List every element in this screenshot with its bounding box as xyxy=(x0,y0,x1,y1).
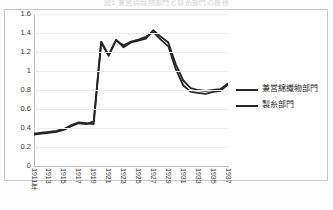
x-axis-tick-label: 1925 xyxy=(135,168,142,184)
y-axis-tick-label: 1.2 xyxy=(1,48,31,56)
gridline xyxy=(34,52,228,53)
gridline xyxy=(34,14,228,15)
y-axis-tick-label: 1.6 xyxy=(1,10,31,18)
legend: 兼営綿織物部門製糸部門 xyxy=(236,84,331,115)
series-line xyxy=(34,30,228,134)
legend-item[interactable]: 製糸部門 xyxy=(236,100,331,110)
page-title: 図1 兼営綿織物部門と製糸部門の推移 xyxy=(0,0,333,7)
legend-item[interactable]: 兼営綿織物部門 xyxy=(236,84,331,94)
x-axis-tick-label: 1915 xyxy=(60,168,67,184)
x-axis-tick-label: 1919 xyxy=(90,168,97,184)
gridline xyxy=(34,128,228,129)
legend-item-label: 製糸部門 xyxy=(262,100,328,110)
gridline xyxy=(34,109,228,110)
x-axis-tick-label: 1917 xyxy=(75,168,82,184)
gridline xyxy=(34,33,228,34)
y-axis-tick-label: 0 xyxy=(1,162,31,170)
y-axis-tick-label: 0.6 xyxy=(1,105,31,113)
x-axis-tick-label: 1935 xyxy=(210,168,217,184)
legend-item-label: 兼営綿織物部門 xyxy=(262,84,328,94)
legend-line-swatch-icon xyxy=(236,89,258,91)
y-axis-tick-label: 1 xyxy=(1,67,31,75)
x-axis-tick-label: 1931 xyxy=(180,168,187,184)
gridline xyxy=(34,147,228,148)
chart-root: 図1 兼営綿織物部門と製糸部門の推移 00.20.40.60.811.21.41… xyxy=(0,0,333,210)
gridline xyxy=(34,90,228,91)
gridline xyxy=(34,71,228,72)
y-axis-tick-label: 0.8 xyxy=(1,86,31,94)
x-axis-tick-label: 1921 xyxy=(105,168,112,184)
x-axis-tick-label: 1933 xyxy=(195,168,202,184)
y-axis-tick-label: 1.4 xyxy=(1,29,31,37)
x-axis-tick-label: 1927 xyxy=(150,168,157,184)
x-axis-tick-label: 1911年 xyxy=(31,168,38,190)
x-axis-tick-label: 1913 xyxy=(45,168,52,184)
y-axis: 00.20.40.60.811.21.41.6 xyxy=(0,14,31,166)
legend-line-swatch-icon xyxy=(236,105,258,107)
y-axis-tick-label: 0.4 xyxy=(1,124,31,132)
x-axis-tick-label: 1923 xyxy=(120,168,127,184)
x-axis-tick-label: 1937 xyxy=(225,168,232,184)
series-line xyxy=(34,32,228,134)
x-axis: 1911年19131915191719191921192319251927192… xyxy=(34,168,230,208)
x-axis-line xyxy=(34,166,229,167)
y-axis-tick-label: 0.2 xyxy=(1,143,31,151)
x-axis-tick-label: 1929 xyxy=(165,168,172,184)
